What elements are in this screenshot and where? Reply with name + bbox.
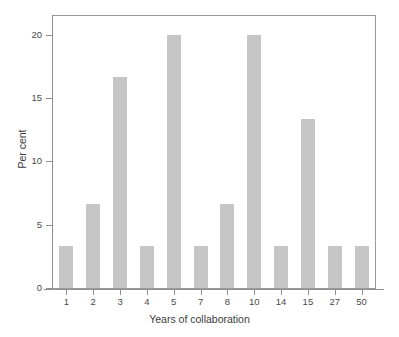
x-axis-line: [44, 289, 384, 290]
bars-layer: [53, 16, 375, 288]
bar-chart: 05101520 12345781014152750 Years of coll…: [0, 0, 399, 337]
y-tick-mark: [46, 35, 52, 36]
x-tick-mark: [93, 290, 94, 295]
x-tick-label: 10: [239, 297, 269, 307]
x-tick-label: 50: [347, 297, 377, 307]
y-axis-title: Per cent: [16, 109, 28, 189]
x-tick-label: 2: [78, 297, 108, 307]
y-tick-label: 0: [0, 283, 42, 293]
x-tick-label: 7: [186, 297, 216, 307]
x-tick-mark: [227, 290, 228, 295]
y-tick-label: 20: [0, 30, 42, 40]
y-tick-mark: [46, 225, 52, 226]
x-tick-mark: [362, 290, 363, 295]
x-tick-label: 14: [266, 297, 296, 307]
bar: [247, 35, 261, 288]
bar: [140, 246, 154, 288]
bar: [194, 246, 208, 288]
x-tick-mark: [174, 290, 175, 295]
y-tick-label: 15: [0, 93, 42, 103]
bar: [113, 77, 127, 288]
x-tick-mark: [147, 290, 148, 295]
x-tick-label: 4: [132, 297, 162, 307]
x-tick-mark: [254, 290, 255, 295]
x-tick-label: 5: [159, 297, 189, 307]
y-tick-label: 5: [0, 220, 42, 230]
y-tick-mark: [46, 98, 52, 99]
y-tick-mark: [46, 161, 52, 162]
x-tick-mark: [120, 290, 121, 295]
x-tick-label: 3: [105, 297, 135, 307]
x-tick-mark: [201, 290, 202, 295]
x-tick-mark: [281, 290, 282, 295]
x-tick-mark: [308, 290, 309, 295]
bar: [59, 246, 73, 288]
x-tick-mark: [66, 290, 67, 295]
x-tick-mark: [335, 290, 336, 295]
x-tick-label: 15: [293, 297, 323, 307]
x-axis-title: Years of collaboration: [0, 313, 399, 325]
bar: [328, 246, 342, 288]
bar: [355, 246, 369, 288]
x-tick-label: 27: [320, 297, 350, 307]
bar: [167, 35, 181, 288]
bar: [220, 204, 234, 288]
x-tick-label: 8: [212, 297, 242, 307]
y-axis-line: [52, 15, 53, 289]
bar: [301, 119, 315, 288]
x-tick-label: 1: [51, 297, 81, 307]
bar: [274, 246, 288, 288]
bar: [86, 204, 100, 288]
